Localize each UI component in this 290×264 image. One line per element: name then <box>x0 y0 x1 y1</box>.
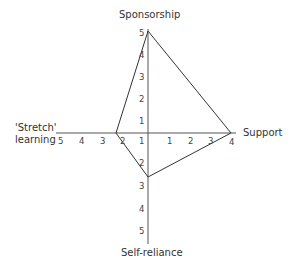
axis-label-learning: learning <box>15 134 56 146</box>
tick-bottom-3: 3 <box>139 181 144 191</box>
profile-shape <box>116 31 231 177</box>
tick-top-1: 1 <box>139 116 144 126</box>
tick-top-2: 2 <box>139 94 144 104</box>
tick-top-5: 5 <box>139 28 144 38</box>
axis-label-stretch: 'Stretch' <box>15 122 57 134</box>
tick-left-1: 1 <box>139 136 144 146</box>
tick-top-4: 4 <box>139 50 144 60</box>
tick-bottom-5: 5 <box>139 226 144 236</box>
tick-right-1: 1 <box>167 136 172 146</box>
tick-right-2: 2 <box>188 136 193 146</box>
tick-left-3: 3 <box>100 136 105 146</box>
axis-label-sponsorship: Sponsorship <box>119 9 180 21</box>
axis-label-support: Support <box>243 127 283 139</box>
tick-bottom-2: 2 <box>139 158 144 168</box>
tick-left-2: 2 <box>120 136 125 146</box>
tick-left-4: 4 <box>79 136 84 146</box>
tick-right-4: 4 <box>229 137 234 147</box>
tick-bottom-4: 4 <box>139 204 144 214</box>
axis-label-self-reliance: Self-reliance <box>121 247 183 259</box>
tick-right-3: 3 <box>208 136 213 146</box>
tick-top-3: 3 <box>139 72 144 82</box>
tick-left-5: 5 <box>58 136 63 146</box>
